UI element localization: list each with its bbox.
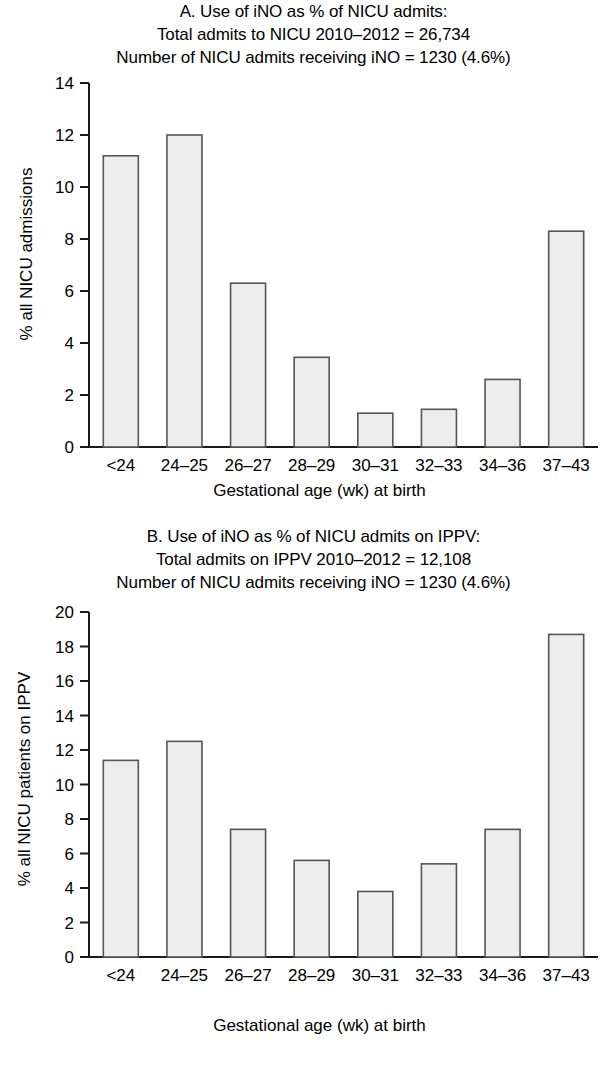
bar [421,409,456,447]
x-tick-label: 37–43 [543,966,590,985]
x-tick-label: 37–43 [543,456,590,475]
x-tick-label: 26–27 [224,966,271,985]
y-tick-label: 12 [55,741,74,760]
bar [231,283,266,447]
panel-a-x-axis-title: Gestational age (wk) at birth [0,481,609,501]
y-tick-label: 12 [55,126,74,145]
bar [167,741,202,957]
y-tick-label: 8 [65,230,74,249]
panel-b-title-line3: Number of NICU admits receiving iNO = 12… [18,571,609,594]
y-tick-label: 14 [55,74,74,93]
y-tick-label: 8 [65,810,74,829]
x-tick-label: 28–29 [288,456,335,475]
x-tick-label: 24–25 [161,966,208,985]
panel-a-title-line1: A. Use of iNO as % of NICU admits: [18,0,609,23]
y-tick-label: 0 [65,948,74,967]
bar [103,156,138,447]
panel-b: B. Use of iNO as % of NICU admits on IPP… [0,525,609,1070]
x-tick-label: <24 [106,966,135,985]
panel-a-chart-svg: 02468101214<2424–2526–2728–2930–3132–333… [0,69,609,479]
y-tick-label: 2 [65,914,74,933]
y-tick-label: 10 [55,776,74,795]
figure-root: A. Use of iNO as % of NICU admits: Total… [0,0,609,1070]
bar [294,357,329,447]
panel-b-plot: % all NICU patients on IPPV 024681012141… [0,594,609,1014]
y-tick-label: 6 [65,282,74,301]
x-tick-label: 30–31 [352,456,399,475]
y-tick-label: 16 [55,672,74,691]
bar [549,231,584,447]
x-tick-label: 28–29 [288,966,335,985]
bar [231,829,266,957]
panel-a-plot: % all NICU admissions 02468101214<2424–2… [0,69,609,479]
x-tick-label: 30–31 [352,966,399,985]
x-tick-label: 34–36 [479,966,526,985]
y-tick-label: 4 [65,879,74,898]
bar [358,891,393,957]
y-tick-label: 6 [65,845,74,864]
bar [485,829,520,957]
y-tick-label: 14 [55,707,74,726]
y-tick-label: 4 [65,334,74,353]
bar [294,860,329,957]
bar [358,413,393,447]
y-tick-label: 18 [55,638,74,657]
panel-b-x-axis-title: Gestational age (wk) at birth [0,1016,609,1036]
bar [103,760,138,957]
panel-a-title-line2: Total admits to NICU 2010–2012 = 26,734 [18,23,609,46]
panel-b-title-line2: Total admits on IPPV 2010–2012 = 12,108 [18,548,609,571]
x-tick-label: <24 [106,456,135,475]
panel-a: A. Use of iNO as % of NICU admits: Total… [0,0,609,520]
bar [485,379,520,447]
panel-a-title: A. Use of iNO as % of NICU admits: Total… [0,0,609,69]
bar [549,634,584,957]
x-tick-label: 32–33 [415,456,462,475]
panel-a-title-line3: Number of NICU admits receiving iNO = 12… [18,46,609,69]
y-tick-label: 20 [55,603,74,622]
panel-b-chart-svg: 02468101214161820<2424–2526–2728–2930–31… [0,594,609,1014]
y-tick-label: 10 [55,178,74,197]
x-tick-label: 24–25 [161,456,208,475]
x-tick-label: 32–33 [415,966,462,985]
bar [421,864,456,957]
panel-b-title: B. Use of iNO as % of NICU admits on IPP… [0,525,609,594]
bar [167,135,202,447]
x-tick-label: 34–36 [479,456,526,475]
y-tick-label: 0 [65,438,74,457]
x-tick-label: 26–27 [224,456,271,475]
panel-b-title-line1: B. Use of iNO as % of NICU admits on IPP… [18,525,609,548]
y-tick-label: 2 [65,386,74,405]
